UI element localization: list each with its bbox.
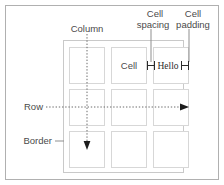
cell-spacing-label-line2: spacing (137, 19, 170, 30)
table-cell (112, 132, 147, 168)
cell-content-text: Hello (157, 61, 178, 71)
cell-label: Cell (121, 60, 137, 71)
cell-spacing-label-line1: Cell (147, 8, 163, 19)
table-anatomy-diagram: Column Row Border Cell Cell spacing Cell… (0, 0, 224, 185)
border-label: Border (23, 135, 52, 146)
cell-padding-label-line2: padding (176, 19, 210, 30)
row-label: Row (24, 101, 43, 112)
column-label: Column (71, 23, 104, 34)
table-cell (154, 132, 189, 168)
cell-padding-label-line1: Cell (185, 8, 201, 19)
table-cell (70, 48, 105, 84)
